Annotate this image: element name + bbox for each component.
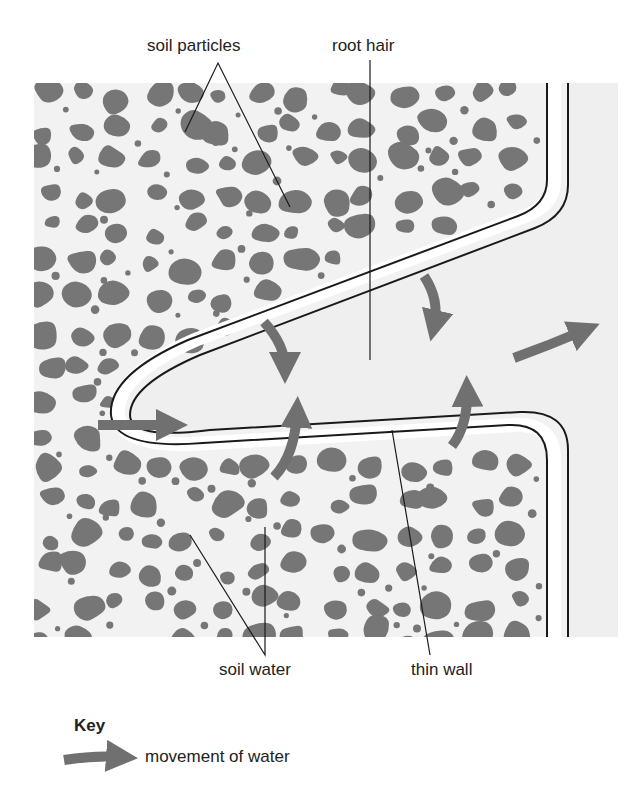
soil-particle-small — [56, 452, 62, 458]
soil-particle-small — [377, 175, 383, 181]
soil-particle-small — [452, 169, 458, 175]
soil-particle-small — [418, 165, 425, 172]
soil-particle-small — [493, 550, 500, 557]
soil-particle-small — [99, 349, 106, 356]
soil-particle-small — [193, 559, 201, 567]
soil-particle-small — [528, 509, 537, 518]
soil-particle-small — [349, 475, 356, 482]
soil-particle-small — [536, 583, 542, 589]
label-soil-particles: soil particles — [147, 36, 241, 56]
soil-particle-small — [54, 166, 60, 172]
soil-particle-small — [172, 477, 180, 485]
soil-particle — [217, 628, 232, 645]
soil-particle-small — [534, 476, 540, 482]
soil-particle-small — [106, 455, 112, 461]
soil-particle-small — [460, 106, 468, 114]
label-soil-water: soil water — [219, 660, 291, 680]
soil-particle-small — [449, 137, 457, 145]
soil-particle-small — [100, 216, 108, 224]
label-thin-wall: thin wall — [411, 660, 472, 680]
soil-particle — [431, 525, 453, 549]
soil-particle-small — [167, 587, 176, 596]
soil-particle-small — [425, 148, 431, 154]
soil-particle-small — [232, 146, 238, 152]
soil-particle-small — [273, 522, 281, 530]
soil-particle-small — [201, 622, 209, 630]
soil-particle-small — [208, 485, 216, 493]
key-arrow-icon — [64, 756, 122, 760]
soil-particle-small — [284, 613, 289, 618]
soil-particle-small — [169, 249, 174, 254]
soil-particle-small — [454, 622, 459, 627]
soil-particle-small — [126, 659, 134, 667]
soil-particle-small — [337, 545, 346, 554]
soil-particle-small — [245, 516, 251, 522]
soil-particle — [397, 636, 419, 652]
soil-particle — [100, 637, 118, 651]
soil-particle-small — [277, 649, 284, 656]
soil-particle — [29, 632, 48, 649]
soil-particle-small — [175, 313, 180, 318]
soil-particle — [136, 640, 152, 653]
soil-particle-small — [385, 585, 392, 592]
soil-particle-small — [94, 378, 102, 386]
soil-particle-small — [94, 169, 99, 174]
soil-particle-small — [312, 114, 317, 119]
soil-particle-small — [125, 270, 130, 275]
soil-particle-small — [428, 553, 434, 559]
root-hair-diagram — [0, 0, 638, 802]
soil-particle-small — [68, 578, 75, 585]
soil-particle-small — [176, 108, 181, 113]
soil-particle-small — [318, 272, 325, 279]
soil-particle-small — [421, 585, 426, 590]
soil-particle-small — [135, 140, 142, 147]
soil-particle-small — [164, 172, 170, 178]
soil-particle-small — [106, 622, 113, 629]
soil-particle-small — [487, 201, 495, 209]
soil-particle-small — [67, 513, 73, 519]
soil-particle-small — [242, 652, 247, 657]
soil-particle-small — [52, 272, 60, 280]
soil-particle — [283, 248, 320, 271]
soil-particle-small — [358, 589, 366, 597]
key-title: Key — [74, 716, 105, 736]
soil-particle-small — [174, 205, 179, 210]
soil-particle — [328, 629, 348, 642]
soil-particle-small — [534, 137, 541, 144]
soil-particle-small — [157, 519, 165, 527]
soil-particle-small — [138, 477, 146, 485]
soil-particle-small — [242, 588, 250, 596]
soil-particle-small — [131, 349, 138, 356]
soil-particle-small — [55, 626, 60, 631]
soil-particle-small — [52, 654, 61, 663]
soil-particle-small — [238, 245, 246, 253]
soil-particle-small — [413, 624, 421, 632]
soil-particle-small — [203, 655, 211, 663]
soil-particle-small — [248, 479, 256, 487]
soil-particle-small — [244, 277, 250, 283]
label-root-hair: root hair — [332, 36, 394, 56]
soil-particle-small — [286, 145, 292, 151]
soil-particle-small — [91, 305, 100, 314]
soil-particle-small — [236, 112, 241, 117]
soil-particle-small — [394, 622, 400, 628]
soil-particle — [364, 615, 389, 645]
soil-particle-small — [100, 410, 106, 416]
soil-particle — [25, 144, 51, 168]
key-item-label: movement of water — [145, 747, 290, 767]
soil-particle-small — [63, 107, 69, 113]
soil-particle-small — [536, 615, 542, 621]
soil-particle — [26, 322, 57, 350]
soil-particle-small — [274, 107, 282, 115]
